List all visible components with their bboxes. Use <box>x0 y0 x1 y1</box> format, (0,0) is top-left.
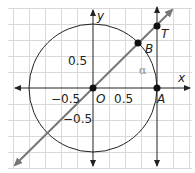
x-axis-label: x <box>177 71 186 85</box>
label-t: T <box>161 27 170 41</box>
point-b <box>135 40 142 47</box>
point-a <box>154 85 161 92</box>
angle-alpha-label: α <box>139 64 147 77</box>
tick-y-neg: −0.5 <box>63 112 92 126</box>
diagonal-ray <box>93 10 172 88</box>
diagram-canvas: y x O A B T 0.5 −0.5 0.5 −0.5 α <box>0 0 195 173</box>
y-axis-label: y <box>96 9 105 23</box>
label-b: B <box>145 42 153 56</box>
label-a: A <box>156 92 165 106</box>
point-o <box>90 85 97 92</box>
unit-circle-diagram: y x O A B T 0.5 −0.5 0.5 −0.5 α <box>0 0 195 173</box>
tick-x-pos: 0.5 <box>114 92 133 106</box>
label-o: O <box>96 92 105 106</box>
tick-y-pos: 0.5 <box>68 54 87 68</box>
tick-x-neg: −0.5 <box>51 92 80 106</box>
point-t <box>154 23 161 30</box>
